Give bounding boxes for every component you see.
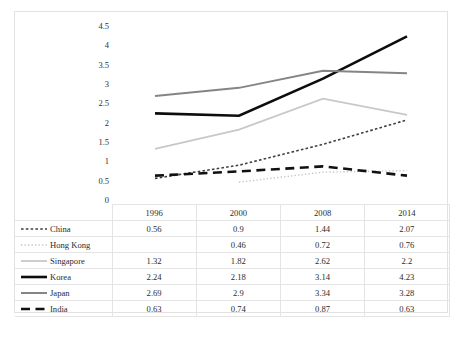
line-chart-plot — [109, 12, 449, 204]
legend-line-swatch — [21, 290, 47, 296]
series-line-china — [155, 120, 407, 178]
table-body: China0.560.91.442.07Hong Kong0.460.720.7… — [15, 221, 449, 317]
legend-entry-china: China — [15, 221, 112, 237]
legend-line-swatch — [21, 306, 47, 312]
series-line-japan — [155, 71, 407, 96]
table-cell: 3.28 — [365, 285, 449, 301]
legend-entry-japan: Japan — [15, 285, 112, 301]
legend-line-swatch — [21, 258, 47, 264]
table-row: Singapore1.321.822.622.2 — [15, 253, 449, 269]
y-axis-tick-label: 3.5 — [65, 60, 109, 69]
legend-label: Japan — [50, 288, 70, 298]
table-cell: 0.63 — [112, 301, 196, 317]
table-cell: 2.2 — [365, 253, 449, 269]
legend-line-swatch — [21, 242, 47, 248]
legend-line-swatch — [21, 226, 47, 232]
legend-label: Singapore — [50, 256, 85, 266]
table-cell: 3.14 — [281, 269, 365, 285]
legend-label: China — [50, 224, 71, 234]
series-line-korea — [155, 36, 407, 115]
table-cell: 1.32 — [112, 253, 196, 269]
y-axis: 00.511.522.533.544.5 — [65, 12, 109, 204]
table-cell: 2.62 — [281, 253, 365, 269]
table-cell: 3.34 — [281, 285, 365, 301]
y-axis-tick-label: 2.5 — [65, 99, 109, 108]
table-cell: 0.63 — [365, 301, 449, 317]
table-cell: 0.56 — [112, 221, 196, 237]
table-cell: 2.24 — [112, 269, 196, 285]
table-cell: 0.76 — [365, 237, 449, 253]
table-row: China0.560.91.442.07 — [15, 221, 449, 237]
y-axis-tick-label: 2 — [65, 118, 109, 127]
legend-entry-korea: Korea — [15, 269, 112, 285]
table-cell: 1.44 — [281, 221, 365, 237]
series-line-hong-kong — [239, 171, 407, 183]
y-axis-tick-label: 4.5 — [65, 22, 109, 31]
y-axis-tick-label: 4 — [65, 41, 109, 50]
table-header-row: 1996200020082014 — [15, 205, 449, 221]
table-cell: 2.69 — [112, 285, 196, 301]
series-line-india — [155, 166, 407, 175]
table-cell: 1.82 — [196, 253, 280, 269]
table-row: Japan2.692.93.343.28 — [15, 285, 449, 301]
y-axis-tick-label: 1.5 — [65, 138, 109, 147]
legend-line-swatch — [21, 274, 47, 280]
legend-entry-hong-kong: Hong Kong — [15, 237, 112, 253]
table-row: Hong Kong0.460.720.76 — [15, 237, 449, 253]
table-corner-cell — [15, 205, 112, 221]
table-cell: 0.46 — [196, 237, 280, 253]
y-axis-tick-label: 0.5 — [65, 176, 109, 185]
table-cell: 4.23 — [365, 269, 449, 285]
table-row: India0.630.740.870.63 — [15, 301, 449, 317]
series-line-singapore — [155, 99, 407, 149]
table-column-header: 2008 — [281, 205, 365, 221]
table-cell — [112, 237, 196, 253]
y-axis-tick-label: 3 — [65, 80, 109, 89]
table-cell: 2.07 — [365, 221, 449, 237]
plot-region: 00.511.522.533.544.5 — [15, 12, 449, 204]
table-header: 1996200020082014 — [15, 205, 449, 221]
legend-label: India — [50, 304, 68, 314]
table-cell: 0.87 — [281, 301, 365, 317]
y-axis-tick-label: 1 — [65, 157, 109, 166]
table-cell: 0.72 — [281, 237, 365, 253]
table-cell: 2.18 — [196, 269, 280, 285]
chart-figure: 00.511.522.533.544.5 1996200020082014 Ch… — [14, 11, 448, 313]
table-cell: 2.9 — [196, 285, 280, 301]
table-column-header: 2014 — [365, 205, 449, 221]
table-cell: 0.74 — [196, 301, 280, 317]
table-row: Korea2.242.183.144.23 — [15, 269, 449, 285]
legend-entry-singapore: Singapore — [15, 253, 112, 269]
legend-entry-india: India — [15, 301, 112, 317]
table-column-header: 1996 — [112, 205, 196, 221]
legend-label: Hong Kong — [50, 240, 90, 250]
table-column-header: 2000 — [196, 205, 280, 221]
legend-label: Korea — [50, 272, 71, 282]
data-table: 1996200020082014 China0.560.91.442.07Hon… — [15, 204, 450, 317]
table-cell: 0.9 — [196, 221, 280, 237]
